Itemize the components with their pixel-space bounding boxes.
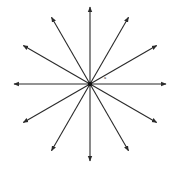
arrow-120deg [52, 17, 91, 84]
radial-arrow-diagram: a [0, 0, 176, 178]
center-point [88, 82, 92, 86]
arrow-150deg [23, 46, 90, 85]
arrow-300deg [90, 84, 129, 151]
angle-label: a [104, 75, 106, 80]
arrows-canvas [0, 0, 176, 178]
arrow-240deg [52, 84, 91, 151]
arrow-330deg [90, 84, 157, 123]
arrow-30deg [90, 46, 157, 85]
arrow-60deg [90, 17, 129, 84]
arrow-210deg [23, 84, 90, 123]
